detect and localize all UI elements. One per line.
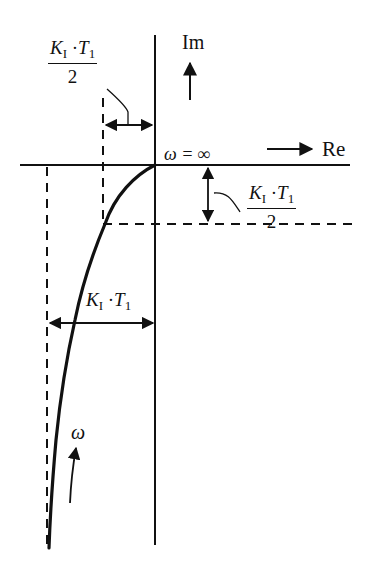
right-half-dimension-label: KI ·T1 2 xyxy=(247,183,296,231)
nyquist-curve xyxy=(49,165,155,548)
omega-direction-arrow xyxy=(70,448,76,503)
real-axis-label: Re xyxy=(322,139,345,160)
fraction-numerator: KI ·T1 xyxy=(48,38,97,64)
fraction-denominator: 2 xyxy=(68,64,78,86)
diagram-canvas xyxy=(0,0,367,585)
origin-omega-infinity-label: ω = ∞ xyxy=(164,145,211,163)
fraction-denominator: 2 xyxy=(267,209,277,231)
top-label-leader xyxy=(107,89,128,125)
right-label-leader xyxy=(214,193,240,212)
fraction-numerator: KI ·T1 xyxy=(247,183,296,209)
omega-label: ω xyxy=(71,422,85,442)
nyquist-diagram: Im Re ω = ∞ ω KI ·T1 2 KI ·T1 2 KI ·T1 xyxy=(0,0,367,585)
top-half-dimension-label: KI ·T1 2 xyxy=(48,38,97,86)
full-dimension-label: KI ·T1 xyxy=(86,290,131,312)
imag-axis-label: Im xyxy=(182,32,204,52)
